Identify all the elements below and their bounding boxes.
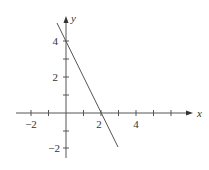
y-tick-label-2: 2 — [53, 71, 59, 83]
line-graph: −2 2 4 4 2 −2 x y — [0, 0, 209, 170]
y-tick-label-4: 4 — [53, 35, 59, 47]
x-axis-label: x — [196, 107, 202, 119]
x-axis-arrow-icon — [186, 111, 193, 116]
x-tick-label-neg2: −2 — [25, 118, 37, 130]
y-axis-arrow-icon — [64, 16, 69, 23]
y-tick-label-neg2: −2 — [48, 142, 60, 154]
x-tick-label-2: 2 — [96, 118, 102, 130]
x-tick-label-4: 4 — [133, 118, 139, 130]
y-axis-label: y — [70, 12, 76, 24]
